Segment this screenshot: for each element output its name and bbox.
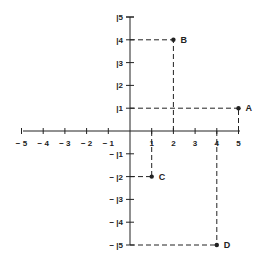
coordinate-plane: ABCD − 5− 4− 3− 2− 112345 |5|4|3|2|1− |1… <box>0 0 266 263</box>
point-b <box>171 38 175 42</box>
projection-lines <box>130 40 239 245</box>
y-tick-label: − |5 <box>109 241 123 250</box>
x-tick-label: − 3 <box>59 139 71 148</box>
point-label: D <box>224 240 231 250</box>
y-tick-label: − |3 <box>109 195 123 204</box>
point-label: A <box>246 103 253 113</box>
x-tick-label: − 5 <box>16 139 28 148</box>
x-tick-label: − 4 <box>38 139 50 148</box>
x-tick-label: − 1 <box>103 139 115 148</box>
x-tick-label: 4 <box>215 139 220 148</box>
y-tick-label: |1 <box>116 104 123 113</box>
y-tick-label: |2 <box>116 81 123 90</box>
point-d <box>215 243 219 247</box>
x-tick-label: − 2 <box>81 139 93 148</box>
y-tick-label: − |4 <box>109 218 123 227</box>
x-tick-label: 3 <box>193 139 198 148</box>
point-a <box>236 106 240 110</box>
x-tick-label: 5 <box>236 139 241 148</box>
point-label: B <box>180 35 187 45</box>
y-tick-label: |4 <box>116 36 123 45</box>
point-label: C <box>159 172 166 182</box>
y-tick-label: |3 <box>116 59 123 68</box>
y-tick-label: |5 <box>116 13 123 22</box>
x-tick-label: 1 <box>149 139 154 148</box>
x-tick-label: 2 <box>171 139 176 148</box>
y-tick-label: − |1 <box>109 150 123 159</box>
y-tick-label: − |2 <box>109 173 123 182</box>
x-axis-labels: − 5− 4− 3− 2− 112345 <box>16 139 241 148</box>
point-c <box>150 174 154 178</box>
